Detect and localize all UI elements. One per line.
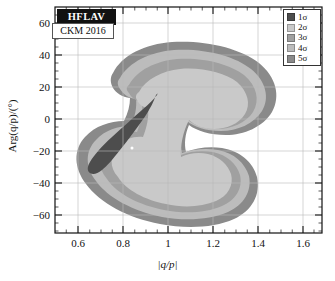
y-tick-label: −20 [24,146,50,157]
legend-item: 3σ [287,33,318,43]
x-tick-label: 1.6 [296,238,310,249]
legend-label-5sigma: 5σ [298,54,307,63]
y-axis-title: Arg(q/p)/(°) [6,56,18,196]
legend: 1σ 2σ 3σ 4σ 5σ [283,9,321,66]
x-axis-title-text: |q/p| [157,258,177,270]
legend-item: 1σ [287,12,318,22]
y-tick-label: −60 [24,210,50,221]
y-tick-label: 60 [24,18,50,29]
legend-swatch-4sigma [287,44,295,52]
hflav-logo-text: HFLAV [68,12,105,23]
legend-item: 4σ [287,43,318,53]
legend-swatch-1sigma [287,13,295,21]
x-tick-label: 1 [165,238,171,249]
legend-item: 5σ [287,54,318,64]
legend-item: 2σ [287,22,318,32]
ckm-label-text: CKM 2016 [60,26,105,36]
x-axis-title: |q/p| [0,258,335,270]
y-tick-label: 40 [24,50,50,61]
y-tick-label: 20 [24,82,50,93]
legend-label-2sigma: 2σ [298,23,307,32]
legend-swatch-5sigma [287,55,295,63]
legend-label-3sigma: 3σ [298,33,307,42]
y-tick-label: 0 [24,114,50,125]
x-tick-label: 0.8 [116,238,130,249]
y-tick-label: −40 [24,178,50,189]
ckm-label-box: CKM 2016 [52,23,114,39]
legend-swatch-2sigma [287,24,295,32]
x-tick-label: 1.4 [251,238,265,249]
legend-label-4sigma: 4σ [298,44,307,53]
x-tick-label: 1.2 [206,238,220,249]
legend-swatch-3sigma [287,34,295,42]
x-tick-label: 0.6 [71,238,85,249]
y-axis-title-text: Arg(q/p)/(°) [6,99,18,152]
figure-root: HFLAV CKM 2016 1σ 2σ 3σ 4σ 5σ 0.6 0.8 1 … [0,0,335,281]
best-fit-point [131,147,134,150]
legend-label-1sigma: 1σ [298,13,307,22]
